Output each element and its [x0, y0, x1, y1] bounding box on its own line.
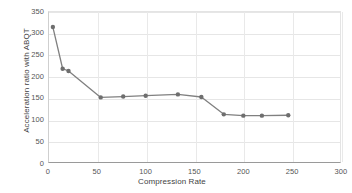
data-point-marker — [121, 94, 125, 98]
x-tick-label: 300 — [327, 167, 352, 176]
data-point-marker — [222, 112, 226, 116]
x-tick-label: 100 — [132, 167, 160, 176]
x-tick-label: 250 — [278, 167, 306, 176]
data-point-marker — [260, 113, 264, 117]
x-tick-label: 50 — [83, 167, 111, 176]
data-point-marker — [286, 113, 290, 117]
x-tick-label: 200 — [229, 167, 257, 176]
x-tick-label: 0 — [34, 167, 62, 176]
gridline-vertical — [342, 12, 343, 162]
data-point-marker — [241, 113, 245, 117]
data-point-marker — [99, 95, 103, 99]
data-point-marker — [60, 67, 64, 71]
data-point-marker — [51, 25, 55, 29]
x-axis-title: Compression Rate — [0, 177, 344, 186]
x-tick-label: 150 — [181, 167, 209, 176]
data-series-layer — [48, 11, 341, 163]
data-point-marker — [176, 92, 180, 96]
data-point-marker — [66, 69, 70, 73]
y-axis-title: Acceleration ratio with ABQT — [22, 5, 31, 157]
data-point-marker — [199, 95, 203, 99]
data-point-marker — [143, 93, 147, 97]
series-line — [53, 27, 288, 116]
